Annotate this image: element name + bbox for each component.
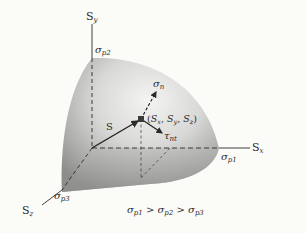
principal-stress-inequality: σp1 > σp2 > σp3 bbox=[127, 204, 204, 217]
sigma-p1-label: σp1 bbox=[221, 151, 237, 164]
resultant-label: S bbox=[106, 121, 113, 132]
y-axis-label: Sy bbox=[86, 10, 99, 24]
stress-point-marker bbox=[138, 116, 144, 122]
sigma-p2-label: σp2 bbox=[95, 44, 111, 57]
stress-ellipsoid-diagram: Sy σp2 Sx σp1 Sz σp3 S σn τnt (Sx, Sy, S… bbox=[0, 0, 307, 233]
z-axis-label: Sz bbox=[22, 204, 34, 218]
ellipsoid-surface bbox=[62, 58, 219, 192]
x-axis-label: Sx bbox=[252, 141, 264, 155]
